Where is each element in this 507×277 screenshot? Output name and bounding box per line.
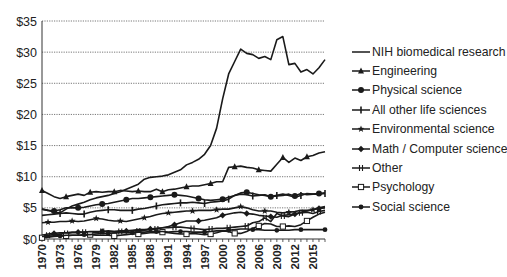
legend-marker-icon <box>352 162 370 174</box>
data-marker <box>274 228 279 233</box>
x-tick-label: 1973 <box>54 244 66 270</box>
data-marker <box>130 230 135 235</box>
legend-item: Physical science <box>352 81 507 100</box>
legend-item: NIH biomedical research <box>352 42 507 61</box>
legend-label: Other <box>372 161 402 175</box>
data-marker <box>147 194 153 200</box>
x-tick-label: 1976 <box>72 244 84 270</box>
data-marker <box>195 218 201 224</box>
x-tick-label: 2006 <box>253 244 265 270</box>
data-marker <box>359 204 364 209</box>
data-marker <box>141 214 148 221</box>
legend-marker-icon <box>352 84 370 96</box>
legend-marker-icon <box>352 181 370 193</box>
data-marker <box>358 126 365 133</box>
legend-marker-icon <box>352 143 370 155</box>
data-marker <box>237 203 244 210</box>
data-marker <box>99 201 105 207</box>
data-marker <box>280 224 285 229</box>
x-tick-label: 2000 <box>217 244 229 270</box>
data-marker <box>280 154 286 160</box>
y-tick-label: $15 <box>16 139 37 153</box>
y-tick-label: $5 <box>23 201 37 215</box>
legend-label: Environmental science <box>372 122 495 136</box>
legend-label: Math / Computer science <box>372 142 507 156</box>
data-marker <box>75 205 81 211</box>
data-marker <box>45 219 52 226</box>
data-marker <box>213 206 220 213</box>
legend-label: Engineering <box>372 64 437 78</box>
data-marker <box>69 217 76 224</box>
data-marker <box>112 233 117 238</box>
data-marker <box>358 145 364 151</box>
x-tick-label: 1991 <box>162 243 174 269</box>
data-marker <box>304 218 309 223</box>
x-tick-label: 1970 <box>36 244 48 270</box>
data-marker <box>178 229 183 234</box>
data-marker <box>165 209 172 216</box>
legend-item: Engineering <box>352 61 507 80</box>
legend-item: Environmental science <box>352 120 507 139</box>
y-tick-label: $35 <box>16 15 37 29</box>
data-marker <box>202 230 207 235</box>
y-tick-label: $20 <box>16 108 37 122</box>
data-marker <box>117 217 124 224</box>
legend-label: All other life sciences <box>372 103 486 117</box>
data-marker <box>154 229 159 234</box>
legend-marker-icon <box>352 123 370 135</box>
legend: NIH biomedical researchEngineeringPhysic… <box>352 42 507 217</box>
data-marker <box>323 227 328 232</box>
legend-marker-icon <box>352 65 370 77</box>
data-marker <box>82 232 87 237</box>
data-marker <box>226 228 231 233</box>
legend-label: Psychology <box>372 180 434 194</box>
legend-label: Physical science <box>372 83 462 97</box>
data-marker <box>123 197 129 203</box>
series-nih-biomedical-research <box>42 37 325 213</box>
y-tick-label: $25 <box>16 77 37 91</box>
data-marker <box>244 210 250 216</box>
data-marker <box>219 212 225 218</box>
x-tick-label: 2015 <box>307 243 319 269</box>
legend-item: Psychology <box>352 178 507 197</box>
legend-marker-icon <box>352 201 370 213</box>
x-tick-label: 1982 <box>108 244 120 270</box>
x-tick-label: 1997 <box>199 244 211 270</box>
y-tick-label: $10 <box>16 170 37 184</box>
legend-item: Math / Computer science <box>352 139 507 158</box>
gridlines <box>42 21 325 208</box>
data-marker <box>358 87 364 93</box>
x-tick-label: 2009 <box>271 244 283 270</box>
data-marker <box>171 192 177 198</box>
data-marker <box>299 227 304 232</box>
x-tick-label: 1994 <box>181 243 193 269</box>
x-tick-label: 2012 <box>289 244 301 270</box>
y-tick-label: $30 <box>16 46 37 60</box>
y-axis: $0$5$10$15$20$25$30$35 <box>16 15 42 247</box>
data-marker <box>261 207 268 214</box>
data-marker <box>196 196 202 202</box>
series-lines <box>39 37 327 241</box>
legend-marker-icon <box>352 46 370 58</box>
x-tick-label: 1985 <box>126 243 138 269</box>
x-tick-label: 1979 <box>90 244 102 270</box>
data-marker <box>58 233 63 238</box>
legend-marker-icon <box>352 104 370 116</box>
data-marker <box>189 207 196 214</box>
y-tick-label: $0 <box>23 233 37 247</box>
x-tick-label: 1988 <box>144 243 156 269</box>
series-engineering <box>39 152 325 199</box>
legend-label: Social science <box>372 200 450 214</box>
x-axis: 1970197319761979198219851988199119941997… <box>36 239 325 270</box>
data-marker <box>39 187 45 193</box>
data-marker <box>256 223 261 228</box>
legend-item: Other <box>352 158 507 177</box>
legend-label: NIH biomedical research <box>372 45 505 59</box>
legend-item: Social science <box>352 197 507 216</box>
legend-item: All other life sciences <box>352 100 507 119</box>
data-marker <box>250 227 255 232</box>
data-marker <box>93 215 100 222</box>
data-marker <box>106 231 111 236</box>
data-marker <box>232 231 237 236</box>
x-tick-label: 2003 <box>235 244 247 270</box>
